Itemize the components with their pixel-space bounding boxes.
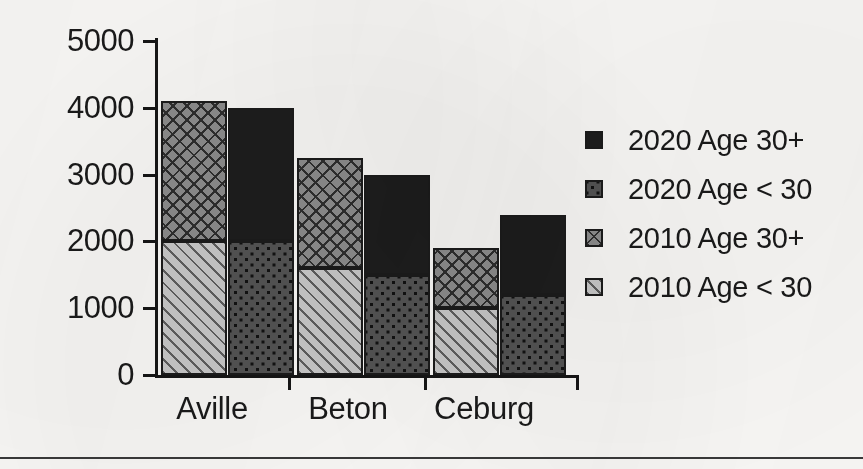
legend-item-2: 2010 Age 30+: [585, 220, 804, 256]
y-axis-tick-label-wrap: 4000: [0, 92, 134, 123]
bar-chart: 500040003000200010000 AvilleBetonCeburg …: [0, 0, 863, 469]
bar-aville-2020: [228, 108, 294, 375]
bar-segment-beton-2020-ageunder30: [364, 275, 430, 375]
legend-swatch-icon: [585, 180, 603, 198]
y-axis-tick-label: 4000: [30, 92, 134, 123]
legend-item-3: 2010 Age < 30: [585, 269, 812, 305]
y-axis-tick-label-wrap: 1000: [0, 292, 134, 323]
y-axis-tick: [143, 307, 156, 310]
legend-swatch-icon: [585, 229, 603, 247]
y-axis-tick-label-wrap: 0: [0, 359, 134, 390]
bar-segment-aville-2010-age30plus: [161, 101, 227, 241]
bar-segment-ceburg-2020-ageunder30: [500, 295, 566, 375]
y-axis-tick-label-wrap: 2000: [0, 225, 134, 256]
x-axis-line: [155, 375, 578, 378]
y-axis-tick-label: 1000: [30, 292, 134, 323]
legend-item-0: 2020 Age 30+: [585, 122, 804, 158]
y-axis-tick: [143, 174, 156, 177]
bar-segment-beton-2010-ageunder30: [297, 268, 363, 375]
bar-segment-aville-2020-age30plus: [228, 108, 294, 242]
y-axis-tick: [143, 107, 156, 110]
legend-swatch-icon: [585, 131, 603, 149]
bar-ceburg-2020: [500, 215, 566, 375]
y-axis-tick-label: 3000: [30, 159, 134, 190]
y-axis-tick-label: 5000: [30, 25, 134, 56]
legend-item-label: 2010 Age < 30: [628, 271, 812, 303]
footer-divider: [0, 457, 863, 459]
bar-segment-aville-2010-ageunder30: [161, 241, 227, 375]
y-axis-tick-label-wrap: 3000: [0, 159, 134, 190]
bar-segment-ceburg-2010-age30plus: [433, 248, 499, 308]
legend-item-1: 2020 Age < 30: [585, 171, 812, 207]
x-axis-separator: [424, 375, 427, 390]
y-axis-tick-label: 0: [30, 359, 134, 390]
bar-segment-ceburg-2010-ageunder30: [433, 308, 499, 375]
y-axis-tick: [143, 40, 156, 43]
bar-segment-aville-2020-ageunder30: [228, 241, 294, 375]
x-axis-category-label-beton: Beton: [273, 392, 423, 426]
x-axis-separator: [288, 375, 291, 390]
bar-segment-beton-2010-age30plus: [297, 158, 363, 268]
bar-beton-2020: [364, 175, 430, 375]
bar-segment-beton-2020-age30plus: [364, 175, 430, 275]
x-axis-separator: [576, 375, 579, 390]
y-axis-tick-label: 2000: [30, 225, 134, 256]
bar-segment-ceburg-2020-age30plus: [500, 215, 566, 295]
legend-swatch-icon: [585, 278, 603, 296]
y-axis-tick-label-wrap: 5000: [0, 25, 134, 56]
y-axis-tick: [143, 240, 156, 243]
x-axis-category-label-aville: Aville: [137, 392, 287, 426]
legend-item-label: 2020 Age 30+: [628, 124, 804, 156]
bar-beton-2010: [297, 158, 363, 375]
bar-ceburg-2010: [433, 248, 499, 375]
x-axis-category-label-ceburg: Ceburg: [409, 392, 559, 426]
y-axis-line: [155, 38, 158, 378]
legend-item-label: 2010 Age 30+: [628, 222, 804, 254]
legend-item-label: 2020 Age < 30: [628, 173, 812, 205]
bar-aville-2010: [161, 101, 227, 375]
